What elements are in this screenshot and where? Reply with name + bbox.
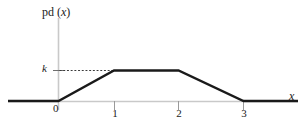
x-tick-label-3: 3 — [241, 108, 247, 119]
origin-label: 0 — [53, 103, 59, 114]
y-tick-label-k: k — [42, 63, 47, 74]
probability-density-figure: pd (x) x k 0 1 2 3 — [0, 0, 306, 131]
y-axis-label-close-paren: ) — [66, 5, 70, 19]
x-tick-label-1: 1 — [112, 108, 118, 119]
x-axis-label: x — [289, 90, 294, 102]
y-axis-label: pd (x) — [42, 6, 70, 18]
x-tick-label-2: 2 — [176, 108, 182, 119]
y-axis-label-name: pd — [42, 5, 54, 19]
density-curve — [8, 71, 298, 102]
